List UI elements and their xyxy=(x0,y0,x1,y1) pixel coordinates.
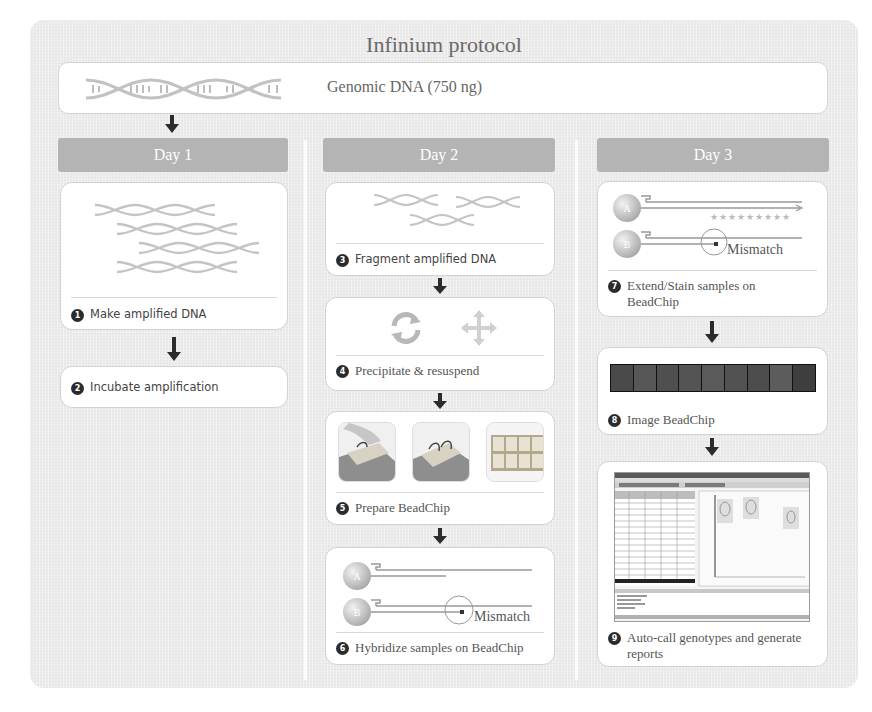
arrow-down-icon xyxy=(165,115,179,133)
card-divider xyxy=(336,243,544,244)
step-1-card: 1 Make amplified DNA xyxy=(60,182,288,330)
arrow-down-icon xyxy=(705,321,719,339)
arrow-down-icon xyxy=(433,278,447,296)
mismatch-label: Mismatch xyxy=(727,242,783,258)
svg-text:A: A xyxy=(353,571,361,582)
step-number-badge: 9 xyxy=(608,632,621,645)
arrow-down-icon xyxy=(433,528,447,546)
beadchip-photo-1 xyxy=(338,422,396,482)
step-9-card: 9 Auto-call genotypes and generate repor… xyxy=(597,461,828,667)
step-number-badge: 7 xyxy=(608,280,621,293)
step-5-label: 5 Prepare BeadChip xyxy=(336,500,450,516)
step-number-badge: 4 xyxy=(336,365,349,378)
step-8-card: 8 Image BeadChip xyxy=(597,347,828,435)
page-title: Infinium protocol xyxy=(30,32,858,58)
genomic-dna-box: Genomic DNA (750 ng) xyxy=(58,62,828,114)
card-divider xyxy=(608,270,817,271)
refresh-icon xyxy=(388,310,424,346)
genomic-dna-label: Genomic DNA (750 ng) xyxy=(327,78,482,96)
day-3-header: Day 3 xyxy=(597,138,829,172)
svg-text:★★★★★★★★★: ★★★★★★★★★ xyxy=(710,212,791,222)
step-3-label: 3 Fragment amplified DNA xyxy=(336,252,496,267)
step-2-card: 2 Incubate amplification xyxy=(60,366,288,408)
step-6-label: 6 Hybridize samples on BeadChip xyxy=(336,640,524,656)
step-number-badge: 6 xyxy=(336,642,349,655)
step-number-badge: 1 xyxy=(71,309,84,322)
step-7-card: A ★★★★★★★★★ B Mismatch 7 Extend/Stain sa… xyxy=(597,181,828,317)
day-2-header: Day 2 xyxy=(323,138,555,172)
svg-text:A: A xyxy=(623,203,631,214)
svg-text:B: B xyxy=(354,607,361,618)
day-1-header: Day 1 xyxy=(58,138,288,172)
step-6-card: A B Mismatch 6 Hybridize samples on Bead… xyxy=(325,547,555,665)
step-4-label: 4 Precipitate & resuspend xyxy=(336,363,479,379)
fragmented-dna-illustration xyxy=(374,193,524,229)
column-divider xyxy=(304,140,307,680)
step-number-badge: 5 xyxy=(336,502,349,515)
arrow-down-icon xyxy=(705,438,719,456)
beadchip-photo-2 xyxy=(412,422,470,482)
card-divider xyxy=(336,492,544,493)
step-7-label: 7 Extend/Stain samples on BeadChip xyxy=(608,278,798,310)
step-4-card: 4 Precipitate & resuspend xyxy=(325,297,555,391)
step-number-badge: 2 xyxy=(71,382,84,395)
step-9-label: 9 Auto-call genotypes and generate repor… xyxy=(608,630,808,662)
arrow-down-icon xyxy=(167,337,181,355)
beadchip-scan-image xyxy=(610,364,816,392)
mismatch-label: Mismatch xyxy=(474,609,530,625)
infinium-protocol-panel: Infinium protocol Genomic DNA (750 ng) D… xyxy=(30,20,858,688)
genotyping-software-screenshot xyxy=(614,472,810,622)
step-3-card: 3 Fragment amplified DNA xyxy=(325,182,555,276)
dna-helix-icon xyxy=(81,76,291,102)
card-divider xyxy=(336,632,544,633)
beadchip-photo-3 xyxy=(486,422,544,482)
svg-text:B: B xyxy=(624,239,631,250)
amplified-dna-illustration xyxy=(95,201,265,281)
arrow-down-icon xyxy=(433,393,447,411)
step-number-badge: 3 xyxy=(336,254,349,267)
column-divider xyxy=(575,140,578,680)
step-1-label: 1 Make amplified DNA xyxy=(71,307,207,322)
step-5-card: 5 Prepare BeadChip xyxy=(325,411,555,525)
step-2-label: 2 Incubate amplification xyxy=(71,380,218,395)
card-divider xyxy=(71,297,277,298)
step-8-label: 8 Image BeadChip xyxy=(608,412,715,428)
step-number-badge: 8 xyxy=(608,414,621,427)
move-arrows-icon xyxy=(461,310,497,346)
card-divider xyxy=(336,355,544,356)
